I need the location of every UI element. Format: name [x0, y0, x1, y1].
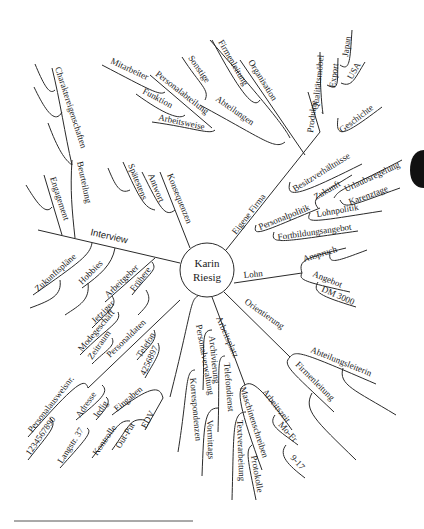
label-charaktereigenschaften: Charaktereigenschaften — [53, 66, 89, 150]
label-telefondienst: Telefondienst — [222, 362, 236, 412]
label-firmenleitung-orient: Firmenleitung — [294, 359, 337, 402]
label-organisation: Organisation — [246, 58, 279, 103]
label-orientierung: Orientierung — [243, 296, 287, 331]
center-label-line1: Karin — [194, 257, 220, 269]
label-textverarbeitung: Textverarbeitung — [235, 420, 247, 482]
label-interview: Interview — [90, 226, 130, 245]
label-9-17: 9-17 — [289, 453, 308, 472]
label-konsequenzen: Konsequenzen — [165, 172, 194, 225]
label-arbeitsweise: Arbeitsweise — [158, 112, 206, 132]
branch-personalverwaltung: Personalverwaltung Korrespondenzen Einga… — [23, 296, 216, 468]
mind-map: Karin Riesig Interview Beurteilung Engag… — [0, 0, 424, 529]
label-firmenleitung: Firmenleitung — [216, 38, 250, 88]
label-export: Export — [327, 62, 340, 88]
label-engagement: Engagement — [48, 176, 72, 222]
label-zukunft: Zukunft — [312, 178, 343, 201]
label-beurteilung: Beurteilung — [75, 160, 94, 204]
label-funktion: Funktion — [141, 86, 175, 110]
center-label-line2: Riesig — [193, 271, 222, 283]
label-abteilungen: Abteilungen — [214, 93, 257, 127]
page-edge-mark — [410, 150, 424, 188]
label-spaetestens: Spätestens — [126, 162, 150, 201]
branch-lohn: Lohn Anspruch Angebot DM 3000 — [234, 244, 367, 307]
label-eingaben: Eingaben — [112, 384, 145, 414]
label-korrespondenzen: Korrespondenzen — [188, 377, 204, 442]
label-japan: Japan — [340, 35, 353, 57]
label-langstr: Langstr. 37 — [55, 425, 86, 465]
label-kontrolle: Kontrolle — [90, 423, 118, 457]
label-ledig: ledig — [91, 398, 110, 419]
label-out-put: Out-Put — [113, 420, 137, 450]
label-qualitaetsmoebel: Qualitätsmöbel — [310, 54, 326, 110]
label-vormittags: Vormittags — [205, 420, 216, 460]
branch-organisation: Organisation Firmenleitung Abteilungen S… — [102, 38, 305, 155]
label-edv: EDV — [139, 408, 157, 429]
label-protokolle: Protokolle — [249, 455, 265, 494]
label-antwort: Antwort — [146, 172, 167, 204]
branch-arbeitsplatz: Arbeitsplatz Archivierung Telefondienst … — [202, 297, 307, 500]
label-zukunftsplaene: Zukunftspläne — [33, 251, 78, 293]
center-node: Karin Riesig — [180, 243, 234, 297]
label-geschichte: Geschichte — [337, 103, 375, 135]
label-mitarbeiter: Mitarbeiter — [109, 56, 150, 82]
label-fortbildungsangebot: Fortbildungsangebot — [277, 222, 353, 242]
label-lohn: Lohn — [243, 268, 263, 280]
label-anspruch: Anspruch — [302, 244, 339, 264]
branch-interview: Interview Beurteilung Engagement Charakt… — [26, 64, 180, 364]
label-abteilungsleiterin: Abteilungsleiterin — [309, 345, 373, 379]
label-arbeitszeit: Arbeitszeit — [260, 387, 292, 425]
label-lohnpolitik: Lohnpolitik — [316, 202, 360, 219]
